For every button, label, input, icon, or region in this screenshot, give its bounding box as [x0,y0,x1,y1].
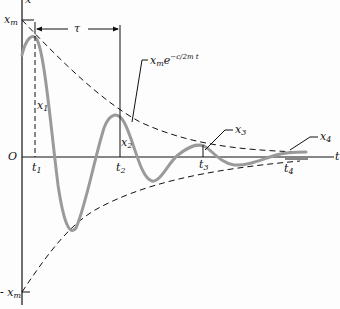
x3-label: x3 [235,124,246,137]
t3-label: t3 [199,159,209,172]
origin-label: O [8,151,17,162]
y-axis-label: x [25,0,31,5]
t2-label: t2 [116,162,126,175]
diagram-graphics [0,0,340,309]
x-axis-label: t [335,151,339,162]
t1-label: t1 [32,162,42,175]
x1-label: x1 [37,100,48,113]
x2-label: x2 [121,137,132,150]
upper-envelope [22,20,300,152]
lower-envelope [22,161,300,292]
tau-label: τ [74,23,80,34]
damped-oscillation-diagram: x t O xm - xm τ x1 x2 x3 x4 t1 t2 t3 t4 … [0,0,340,309]
x4-label: x4 [320,131,331,144]
t4-label: t4 [284,163,294,176]
neg-xm-label: - xm [0,287,21,300]
xm-label: xm [4,14,18,27]
envelope-label: xme−c/2m t [150,54,199,68]
